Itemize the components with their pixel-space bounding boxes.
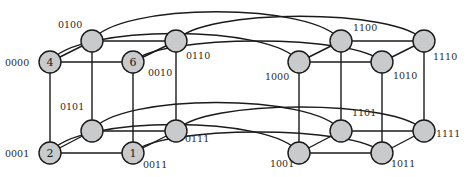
label-1110: 1110 bbox=[433, 51, 457, 62]
node-circle bbox=[413, 120, 435, 142]
label-1101: 1101 bbox=[352, 107, 376, 118]
node-circle bbox=[81, 30, 103, 52]
node-circle bbox=[371, 51, 393, 73]
label-0001: 0001 bbox=[5, 148, 29, 159]
node-0011: 1 bbox=[122, 142, 144, 164]
node-1110 bbox=[413, 30, 435, 52]
label-1001: 1001 bbox=[270, 158, 294, 169]
node-number: 1 bbox=[130, 147, 137, 160]
node-circle bbox=[330, 120, 352, 142]
label-1111: 1111 bbox=[436, 128, 460, 139]
node-0001: 2 bbox=[39, 142, 61, 164]
node-0010: 6 bbox=[122, 51, 144, 73]
node-1101 bbox=[330, 120, 352, 142]
label-1011: 1011 bbox=[391, 158, 415, 169]
node-number: 4 bbox=[47, 56, 54, 69]
node-0101 bbox=[81, 120, 103, 142]
node-circle bbox=[165, 120, 187, 142]
node-circle bbox=[371, 142, 393, 164]
label-0000: 0000 bbox=[5, 57, 29, 68]
node-circle bbox=[81, 120, 103, 142]
label-0100: 0100 bbox=[58, 19, 82, 30]
node-0000: 4 bbox=[39, 51, 61, 73]
node-0110 bbox=[165, 30, 187, 52]
node-circle bbox=[288, 51, 310, 73]
node-circle bbox=[413, 30, 435, 52]
node-0100 bbox=[81, 30, 103, 52]
hypercube-diagram: 4621 00000100001001101000110010101110000… bbox=[0, 0, 468, 177]
nodes: 4621 bbox=[39, 30, 435, 164]
label-1100: 1100 bbox=[353, 22, 377, 33]
node-circle bbox=[330, 30, 352, 52]
node-number: 2 bbox=[47, 147, 54, 160]
node-1010 bbox=[371, 51, 393, 73]
label-0101: 0101 bbox=[60, 101, 84, 112]
label-0111: 0111 bbox=[185, 133, 209, 144]
label-1010: 1010 bbox=[393, 70, 417, 81]
cube-edges bbox=[50, 41, 424, 153]
node-1011 bbox=[371, 142, 393, 164]
node-1000 bbox=[288, 51, 310, 73]
label-1000: 1000 bbox=[265, 71, 289, 82]
node-circle bbox=[165, 30, 187, 52]
label-0010: 0010 bbox=[148, 67, 172, 78]
node-number: 6 bbox=[130, 56, 137, 69]
label-0110: 0110 bbox=[186, 50, 210, 61]
node-1111 bbox=[413, 120, 435, 142]
node-0111 bbox=[165, 120, 187, 142]
label-0011: 0011 bbox=[143, 159, 167, 170]
node-1100 bbox=[330, 30, 352, 52]
